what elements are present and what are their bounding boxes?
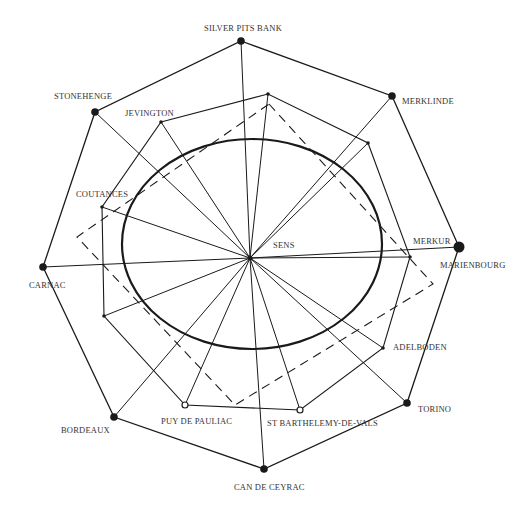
- outer-polygon-outline: [43, 41, 459, 469]
- label-st-barthelemy-de-vals: ST BARTHELEMY-DE-VALS: [267, 419, 378, 428]
- label-coutances: COUTANCES: [76, 190, 128, 199]
- label-marienbourg: MARIENBOURG: [440, 261, 505, 270]
- label-merkur: MERKUR: [413, 237, 451, 246]
- site-marker-dot-icon: [100, 205, 104, 209]
- label-silver-pits-bank: SILVER PITS BANK: [204, 24, 282, 33]
- site-marker-filled-icon: [110, 413, 118, 421]
- label-can-de-ceyrac: CAN DE CEYRAC: [234, 483, 305, 492]
- site-marker-filled-icon: [91, 108, 99, 116]
- label-torino: TORINO: [418, 405, 451, 414]
- spoke-outer-5: [114, 258, 250, 417]
- site-marker-dot-icon: [408, 255, 412, 259]
- site-marker-filled-icon: [454, 242, 465, 253]
- label-puy-de-pauliac: PUY DE PAULIAC: [161, 417, 232, 426]
- spoke-inner-2: [250, 143, 368, 258]
- label-adelboden: ADELBODEN: [393, 343, 447, 352]
- site-marker-filled-icon: [388, 92, 396, 100]
- dashed-polygon-outline: [77, 104, 433, 405]
- label-stonehenge: STONEHENGE: [54, 92, 112, 101]
- label-merklinde: MERKLINDE: [402, 97, 454, 106]
- site-marker-dot-icon: [381, 346, 385, 350]
- spoke-inner-1: [250, 94, 268, 258]
- site-marker-open-icon: [182, 402, 188, 408]
- spoke-outer-4: [250, 258, 264, 469]
- spoke-outer-0: [241, 41, 250, 258]
- outer-polygon: [43, 41, 459, 469]
- center-marker-icon: [248, 256, 253, 261]
- label-sens: SENS: [273, 241, 295, 250]
- label-carnac: CARNAC: [29, 281, 66, 290]
- spoke-outer-6: [43, 258, 250, 267]
- dashed-polygon: [77, 104, 433, 405]
- site-marker-filled-icon: [237, 37, 245, 45]
- site-marker-dot-icon: [266, 92, 270, 96]
- label-bordeaux: BORDEAUX: [61, 426, 110, 435]
- site-marker-filled-icon: [39, 263, 47, 271]
- site-marker-dot-icon: [366, 141, 370, 145]
- spoke-inner-8: [102, 207, 250, 258]
- center-node: [248, 256, 253, 261]
- site-marker-filled-icon: [403, 399, 411, 407]
- site-marker-dot-icon: [102, 314, 106, 318]
- site-marker-filled-icon: [260, 465, 268, 473]
- label-jevington: JEVINGTON: [125, 109, 174, 118]
- site-marker-open-icon: [297, 407, 303, 413]
- site-marker-dot-icon: [159, 120, 163, 124]
- spoke-inner-0: [161, 122, 250, 258]
